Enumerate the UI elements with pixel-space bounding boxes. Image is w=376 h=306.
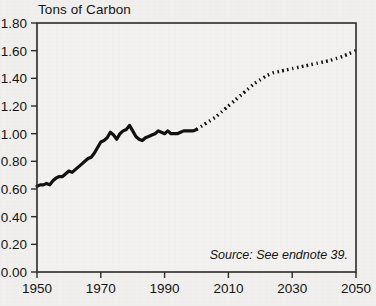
x-tick-label: 2010 xyxy=(213,281,243,296)
chart-figure: Tons of Carbon 0.000.200.400.600.801.001… xyxy=(0,0,376,306)
x-axis-ticks: 195019701990201020302050 xyxy=(22,272,371,296)
y-tick-label: 1.80 xyxy=(1,16,27,31)
x-tick-label: 1970 xyxy=(86,281,116,296)
y-tick-label: 0.40 xyxy=(1,210,27,225)
y-tick-label: 1.00 xyxy=(1,127,27,142)
y-tick-label: 1.40 xyxy=(1,71,27,86)
x-tick-label: 2050 xyxy=(341,281,371,296)
x-tick-label: 2030 xyxy=(277,281,307,296)
chart-plot-area: 0.000.200.400.600.801.001.201.401.601.80… xyxy=(0,0,376,306)
plot-background xyxy=(37,23,356,272)
y-tick-label: 1.20 xyxy=(1,99,27,114)
y-tick-label: 1.60 xyxy=(1,44,27,59)
y-tick-label: 0.60 xyxy=(1,182,27,197)
y-axis-ticks: 0.000.200.400.600.801.001.201.401.601.80 xyxy=(1,16,37,280)
y-tick-label: 0.20 xyxy=(1,237,27,252)
y-tick-label: 0.00 xyxy=(1,265,27,280)
y-tick-label: 0.80 xyxy=(1,154,27,169)
source-note: Source: See endnote 39. xyxy=(210,248,348,262)
x-tick-label: 1990 xyxy=(150,281,180,296)
x-tick-label: 1950 xyxy=(22,281,52,296)
